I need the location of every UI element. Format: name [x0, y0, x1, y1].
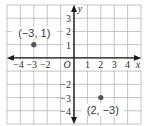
- y-axis-up-arrow-icon: [71, 5, 77, 12]
- x-axis-label: x: [135, 59, 141, 70]
- origin-label: O: [63, 59, 70, 70]
- x-tick-label: 1: [85, 59, 90, 70]
- y-axis-down-arrow-icon: [71, 117, 77, 124]
- y-tick-label: −3: [60, 93, 71, 104]
- data-point: [31, 42, 36, 47]
- x-tick-label: −3: [26, 59, 37, 70]
- coordinate-plane: −4−3−21234321−2−3−4Oxy (−3, 1)(2, −3): [0, 0, 144, 126]
- x-tick-label: −2: [40, 59, 51, 70]
- x-tick-label: −4: [13, 59, 24, 70]
- y-tick-label: 1: [66, 40, 71, 51]
- y-tick-label: −4: [60, 106, 71, 117]
- x-tick-label: 3: [112, 59, 117, 70]
- x-tick-label: 4: [125, 59, 130, 70]
- point-label: (2, −3): [87, 104, 119, 116]
- y-axis-label: y: [77, 3, 83, 14]
- x-tick-label: 2: [98, 59, 103, 70]
- y-tick-label: 2: [66, 26, 71, 37]
- tick-labels: −4−3−21234321−2−3−4Oxy: [12, 3, 142, 117]
- point-label: (−3, 1): [18, 27, 50, 39]
- y-tick-label: 3: [66, 13, 71, 24]
- data-point: [98, 95, 103, 100]
- y-tick-label: −2: [60, 79, 71, 90]
